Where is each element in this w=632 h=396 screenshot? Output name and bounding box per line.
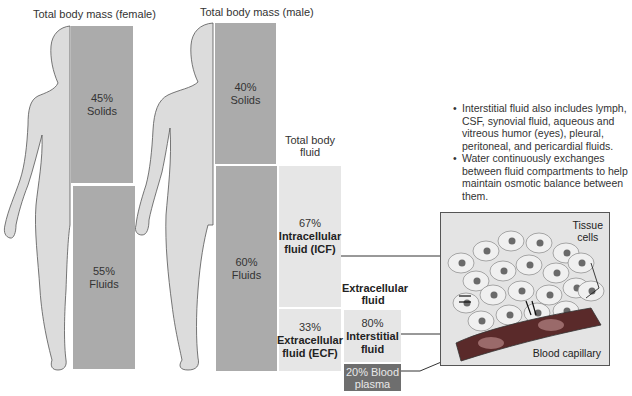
tissue-cell	[490, 261, 516, 281]
tissue-cell	[508, 281, 534, 301]
tissue-cell	[448, 253, 474, 273]
female-silhouette	[4, 26, 70, 370]
total-body-fluid-title: Total body fluid	[279, 134, 341, 158]
tissue-cell	[473, 241, 499, 261]
total-body-fluid-title-line2: fluid	[279, 146, 341, 158]
icf-label-line1: Intracellular	[279, 230, 341, 243]
tissue-cells-label-line2: cells	[572, 231, 603, 243]
female-fluids-box: 55% Fluids	[73, 186, 135, 369]
total-body-fluid-title-line1: Total body	[279, 134, 341, 146]
extracellular-fluid-title-line1: Extracellular	[342, 282, 404, 294]
notes: Interstitial fluid also includes lymph, …	[452, 102, 632, 202]
female-fluids-percent: 55%	[93, 265, 115, 278]
plasma-box: 20% Blood plasma	[344, 364, 401, 391]
female-title: Total body mass (female)	[33, 8, 156, 20]
extracellular-fluid-title-line2: fluid	[342, 294, 404, 306]
female-solids-label: Solids	[87, 105, 117, 118]
female-fluids-label: Fluids	[89, 278, 118, 291]
interstitial-label-line1: Interstitial	[346, 330, 399, 343]
tissue-cell	[526, 233, 552, 253]
icf-box: 67% Intracellular fluid (ICF)	[279, 166, 341, 307]
plasma-line2: plasma	[355, 378, 390, 390]
male-fluids-label: Fluids	[232, 269, 261, 282]
tissue-cell	[516, 255, 542, 275]
note-item: Interstitial fluid also includes lymph, …	[462, 102, 632, 152]
male-title: Total body mass (male)	[200, 6, 314, 18]
male-solids-percent: 40%	[234, 81, 256, 94]
extracellular-fluid-title: Extracellular fluid	[342, 282, 404, 306]
tissue-cell	[536, 285, 562, 305]
tissue-illustration: Tissue cells Blood capillary	[440, 212, 610, 366]
tissue-cell	[578, 281, 604, 301]
blood-capillary-label: Blood capillary	[533, 347, 601, 359]
interstitial-label-line2: fluid	[361, 343, 384, 356]
tissue-cell	[543, 263, 569, 283]
icf-percent: 67%	[299, 217, 321, 230]
male-fluids-percent: 60%	[235, 256, 257, 269]
interstitial-percent: 80%	[361, 317, 383, 330]
male-solids-box: 40% Solids	[215, 23, 276, 164]
tissue-cells-label-line1: Tissue	[572, 219, 603, 231]
plasma-line1: 20% Blood	[346, 366, 399, 378]
female-solids-percent: 45%	[91, 92, 113, 105]
ecf-label-line2: fluid (ECF)	[282, 347, 338, 360]
red-blood-cell	[478, 337, 504, 349]
male-solids-label: Solids	[231, 94, 261, 107]
icf-label-line2: fluid (ICF)	[284, 243, 335, 256]
tissue-cell	[568, 253, 594, 273]
interstitial-box: 80% Interstitial fluid	[344, 310, 401, 362]
male-fluids-box: 60% Fluids	[216, 166, 277, 371]
tissue-cell	[496, 305, 522, 325]
female-solids-box: 45% Solids	[71, 26, 133, 183]
tissue-cell	[498, 231, 524, 251]
ecf-box: 33% Extracellular fluid (ECF)	[279, 309, 341, 371]
red-blood-cell	[538, 319, 564, 331]
male-silhouette	[135, 23, 213, 370]
tissue-cell	[468, 311, 494, 331]
note-item: Water continuously exchanges between flu…	[462, 152, 632, 202]
tissue-cells-label: Tissue cells	[572, 219, 603, 243]
ecf-percent: 33%	[299, 321, 321, 334]
tissue-cell	[480, 285, 506, 305]
ecf-label-line1: Extracellular	[277, 334, 343, 347]
